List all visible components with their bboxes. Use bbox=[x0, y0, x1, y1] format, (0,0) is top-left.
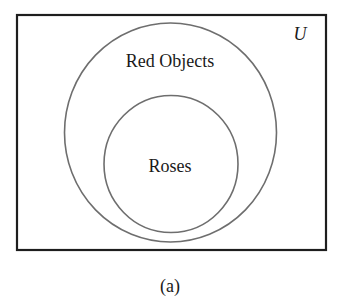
red-objects-label: Red Objects bbox=[126, 51, 214, 71]
figure-caption: (a) bbox=[160, 276, 180, 297]
venn-diagram: U Red Objects Roses (a) bbox=[0, 0, 341, 305]
roses-label: Roses bbox=[148, 156, 191, 176]
universe-label: U bbox=[294, 24, 308, 44]
